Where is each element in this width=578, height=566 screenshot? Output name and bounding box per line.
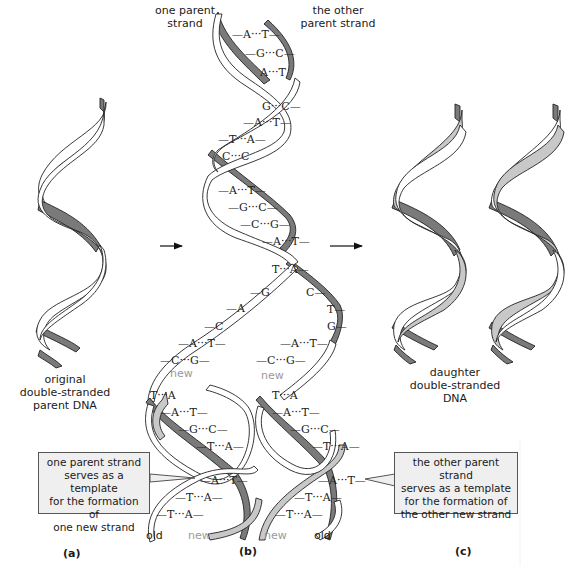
unpaired-base: C— — [306, 287, 325, 299]
replication-fork-helix — [146, 12, 345, 542]
base-pair: T···A— — [272, 264, 309, 276]
label-line: the other — [298, 4, 378, 17]
caption-line: double-stranded — [10, 386, 120, 399]
base-pair: —T···A— — [294, 492, 342, 504]
unpaired-base: G— — [327, 321, 347, 333]
base-pair: —G···C— — [290, 424, 340, 436]
base-pair: —C···G— — [256, 355, 306, 367]
caption-line: original — [10, 373, 120, 386]
base-pair: T···A — [272, 390, 298, 402]
daughter-dna-helix-2 — [489, 104, 564, 364]
base-pair: —A···T— — [178, 338, 226, 350]
caption-line: daughter — [400, 366, 510, 379]
base-pair: —A···T— — [200, 475, 248, 487]
base-pair: —A···T— — [243, 117, 291, 129]
callout-line: the other new strand — [399, 508, 513, 521]
old-strand-label: old — [314, 529, 331, 542]
base-pair: —G···C— — [245, 48, 295, 60]
base-pair: —T···A— — [312, 441, 360, 453]
new-strand-label: new — [170, 367, 193, 380]
base-pair: —T···A— — [175, 492, 223, 504]
label-line: parent strand — [298, 17, 378, 30]
base-pair: —T···A— — [156, 509, 204, 521]
unpaired-base: —A — [226, 303, 245, 315]
base-pair: —C···G— — [240, 219, 290, 231]
label-one-parent-strand: one parent strand — [150, 4, 220, 30]
dna-replication-diagram: one parent strand the other parent stran… — [0, 0, 578, 566]
callout-line: one parent strand — [43, 456, 145, 469]
base-pair: —A···T— — [218, 185, 266, 197]
label-line: one parent — [150, 4, 220, 17]
base-pair: —T···A— — [275, 509, 323, 521]
base-pair: —A···T— — [318, 475, 366, 487]
base-pair: —T···A— — [196, 441, 244, 453]
caption-daughter-dna: daughter double-stranded DNA — [400, 366, 510, 405]
callout-line: the other parent strand — [399, 456, 513, 482]
caption-parent-dna: original double-stranded parent DNA — [10, 373, 120, 412]
caption-line: double-stranded — [400, 379, 510, 392]
base-pair: G···C— — [262, 101, 301, 113]
parent-dna-helix — [36, 98, 106, 368]
caption-line: DNA — [400, 392, 510, 405]
base-pair: C···C — [222, 151, 249, 163]
unpaired-base: —C — [204, 321, 223, 333]
base-pair: —A···T— — [232, 29, 280, 41]
callout-right: the other parent strand serves as a temp… — [394, 452, 518, 514]
unpaired-base: —G — [250, 287, 270, 299]
old-strand-label: old — [146, 529, 163, 542]
callout-line: serves as a template — [43, 469, 145, 495]
base-pair: T···A — [150, 390, 176, 402]
base-pair: —G···C— — [228, 202, 278, 214]
callout-line: for the formation of — [399, 495, 513, 508]
callout-line: for the formation of — [43, 495, 145, 521]
base-pair: —A···T— — [262, 236, 310, 248]
callout-pointer-right — [365, 474, 395, 486]
panel-label-a: (a) — [63, 547, 80, 560]
callout-left: one parent strand serves as a template f… — [38, 452, 150, 514]
unpaired-base: T— — [327, 304, 345, 316]
panel-label-b: (b) — [239, 545, 257, 558]
caption-line: parent DNA — [10, 399, 120, 412]
base-pair: A···T — [260, 67, 286, 79]
new-strand-label: new — [188, 529, 211, 542]
base-pair: —A···T— — [280, 338, 328, 350]
panel-label-c: (c) — [455, 545, 472, 558]
base-pair: —A···T— — [160, 407, 208, 419]
callout-line: one new strand — [43, 521, 145, 534]
label-line: strand — [150, 17, 220, 30]
daughter-dna-helix-1 — [392, 104, 466, 364]
base-pair: —A···T— — [272, 407, 320, 419]
new-strand-label: new — [261, 369, 284, 382]
base-pair: —G···C— — [178, 424, 228, 436]
new-strand-label: new — [264, 529, 287, 542]
label-other-parent-strand: the other parent strand — [298, 4, 378, 30]
callout-line: serves as a template — [399, 482, 513, 495]
base-pair: —T···A— — [218, 134, 266, 146]
base-pair: —C···G— — [160, 355, 210, 367]
